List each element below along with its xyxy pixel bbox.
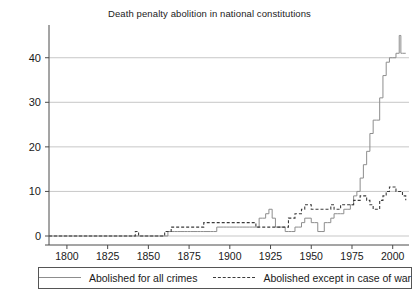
legend-entry-except-war: Abolished except in case of war [213, 272, 411, 284]
gridlines [49, 58, 409, 236]
chart-legend: Abolished for all crimes Abolished excep… [38, 267, 412, 289]
y-axis-ticks: 010203040 [29, 52, 49, 242]
legend-label-except-war: Abolished except in case of war [263, 272, 411, 284]
series-line-2 [49, 187, 406, 236]
svg-text:1900: 1900 [218, 250, 242, 262]
svg-text:30: 30 [29, 96, 41, 108]
svg-text:20: 20 [29, 141, 41, 153]
svg-text:1975: 1975 [340, 250, 364, 262]
svg-text:1850: 1850 [137, 250, 161, 262]
svg-text:1875: 1875 [177, 250, 201, 262]
svg-text:0: 0 [35, 230, 41, 242]
legend-entry-all-crimes: Abolished for all crimes [39, 272, 198, 284]
svg-text:40: 40 [29, 52, 41, 64]
chart-container: Death penalty abolition in national cons… [0, 0, 419, 301]
svg-text:1800: 1800 [55, 250, 79, 262]
legend-label-all-crimes: Abolished for all crimes [89, 272, 198, 284]
svg-text:2000: 2000 [381, 250, 405, 262]
series-line-1 [49, 35, 406, 236]
svg-text:1950: 1950 [300, 250, 324, 262]
data-series-layer [49, 35, 406, 236]
svg-text:10: 10 [29, 185, 41, 197]
legend-swatch-dashed-line [213, 277, 255, 279]
legend-swatch-solid-line [39, 277, 81, 279]
plot-area: 010203040 180018251850187519001925195019… [0, 0, 419, 301]
svg-text:1825: 1825 [96, 250, 120, 262]
svg-text:1925: 1925 [259, 250, 283, 262]
x-axis-ticks: 180018251850187519001925195019752000 [55, 245, 404, 262]
